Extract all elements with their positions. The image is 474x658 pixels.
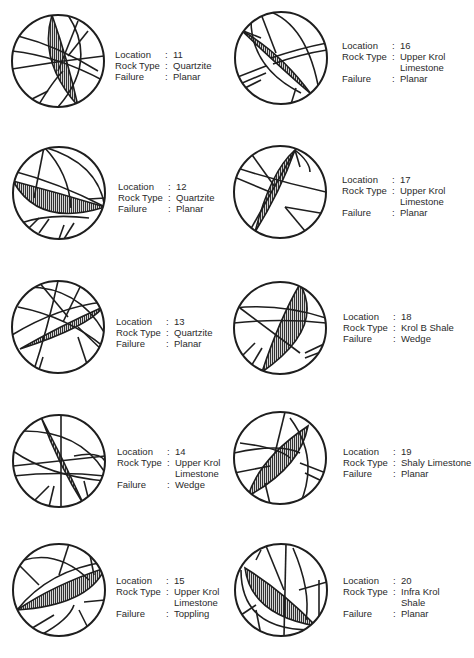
- stereonet-caption-16: Location:16 Rock Type:Upper Krol Limesto…: [342, 40, 474, 84]
- stereonet-11: [10, 13, 106, 109]
- stereonet-19: [232, 410, 328, 506]
- stereonet-20: [233, 542, 329, 638]
- stereonet-14: [11, 413, 107, 509]
- stereonet-caption-17: Location:17 Rock Type:Upper Krol Limesto…: [342, 174, 474, 218]
- stereonet-17: [232, 144, 328, 240]
- stereonet-caption-18: Location:18 Rock Type:Krol B Shale Failu…: [343, 311, 474, 344]
- stereonet-16: [233, 10, 329, 106]
- stereonet-13: [10, 279, 106, 375]
- stereonet-18: [232, 280, 328, 376]
- stereonet-15: [11, 542, 107, 638]
- stereonet-12: [11, 145, 107, 241]
- stereonet-caption-20: Location:20 Rock Type:Infra Krol Shale F…: [343, 575, 474, 619]
- stereonet-caption-19: Location:19 Rock Type:Shaly Limestone Fa…: [343, 446, 474, 479]
